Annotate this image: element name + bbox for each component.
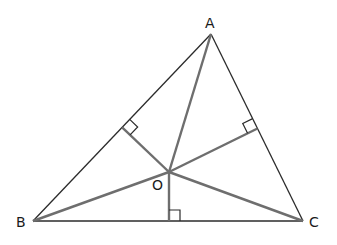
- vertex-label-c: C: [309, 214, 319, 230]
- geometry-diagram: A B C O: [0, 0, 337, 245]
- right-angle-mark-ab: [130, 119, 138, 135]
- right-angle-mark-bc: [169, 210, 180, 221]
- inner-segments: [33, 34, 303, 221]
- perpendicular-o-ac: [169, 128, 257, 172]
- side-ab: [33, 34, 211, 221]
- vertex-label-b: B: [16, 214, 26, 230]
- segment-oa: [169, 34, 211, 172]
- vertex-label-a: A: [205, 15, 215, 31]
- perpendicular-o-ab: [122, 127, 169, 172]
- point-label-o: O: [152, 177, 163, 193]
- segment-ob: [33, 172, 169, 221]
- right-angle-marks: [130, 119, 253, 221]
